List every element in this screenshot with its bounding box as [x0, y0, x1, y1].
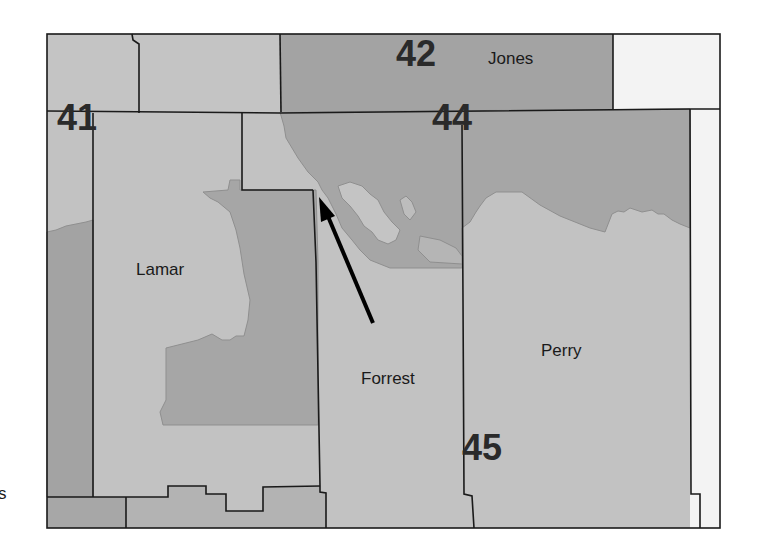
district-number-41: 41 [57, 97, 97, 138]
district-number-44: 44 [432, 97, 472, 138]
edge-text-fragment: s [0, 484, 7, 503]
county-label-lamar: Lamar [136, 260, 185, 279]
district-map: 41 42 44 45 Lamar Forrest Perry Jones s [0, 0, 761, 552]
district-41-west-region [47, 220, 93, 497]
county-label-forrest: Forrest [361, 369, 415, 388]
county-white-northeast [613, 34, 720, 109]
county-white-east [690, 109, 720, 528]
county-southwest-box [47, 497, 126, 528]
district-number-45: 45 [462, 427, 502, 468]
county-white-southeast [700, 494, 720, 528]
county-label-perry: Perry [541, 341, 582, 360]
county-label-jones: Jones [488, 49, 533, 68]
district-number-42: 42 [396, 33, 436, 74]
